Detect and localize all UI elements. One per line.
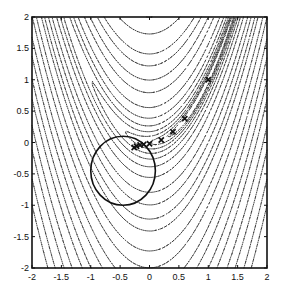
y-tick-label: -2 — [21, 263, 29, 273]
contour-lines — [32, 17, 267, 268]
contour-plot: -2-1.5-1-0.500.511.52 -2-1.5-1-0.500.511… — [0, 0, 282, 295]
x-tick-label: -0.5 — [112, 272, 128, 282]
y-tick-label: -0.5 — [13, 169, 29, 179]
x-tick-label: -1 — [87, 272, 95, 282]
x-tick-label: 1.5 — [231, 272, 244, 282]
y-tick-label: 1 — [24, 75, 29, 85]
y-axis: -2-1.5-1-0.500.511.52 — [13, 12, 267, 273]
y-tick-label: -1.5 — [13, 232, 29, 242]
x-tick-label: 1 — [206, 272, 211, 282]
y-tick-label: 1.5 — [16, 43, 29, 53]
x-tick-label: 0 — [147, 272, 152, 282]
y-tick-label: 0.5 — [16, 106, 29, 116]
x-tick-label: 2 — [264, 272, 269, 282]
x-tick-label: -2 — [28, 272, 36, 282]
y-tick-label: 0 — [24, 138, 29, 148]
x-tick-label: 0.5 — [173, 272, 186, 282]
y-tick-label: 2 — [24, 12, 29, 22]
x-tick-label: -1.5 — [54, 272, 70, 282]
y-tick-label: -1 — [21, 200, 29, 210]
